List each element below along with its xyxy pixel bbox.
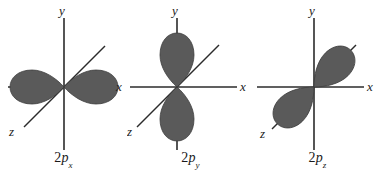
p-orbital-figure: y x z 2px y x z 2py xyxy=(0,0,381,173)
lobe-positive-x xyxy=(64,70,118,104)
lobe-negative-y xyxy=(160,87,194,141)
orbital-diagram-2py: y x z 2py xyxy=(127,0,254,173)
orbital-diagram-2px: y x z 2px xyxy=(0,0,127,173)
caption-prefix-2pz: 2 xyxy=(308,150,315,165)
axis-label-z: z xyxy=(8,124,14,139)
axis-label-x: x xyxy=(239,79,246,94)
caption-symbol-2pz: p xyxy=(316,150,323,165)
orbital-svg-2pz: y x z xyxy=(254,0,381,173)
axis-label-x: x xyxy=(366,79,373,94)
orbital-svg-2py: y x z xyxy=(127,0,254,173)
axis-label-y: y xyxy=(170,3,178,18)
orbital-caption-2px: 2px xyxy=(0,150,127,168)
caption-symbol-2py: p xyxy=(188,150,195,165)
axis-label-x: x xyxy=(115,79,122,94)
caption-subscript-2py: y xyxy=(196,160,200,170)
orbital-caption-2pz: 2pz xyxy=(254,150,381,168)
caption-subscript-2px: x xyxy=(69,160,73,170)
orbital-caption-2py: 2py xyxy=(127,150,254,168)
caption-subscript-2pz: z xyxy=(323,160,327,170)
axis-label-y: y xyxy=(57,3,65,18)
lobe-positive-y xyxy=(160,33,194,87)
axis-label-z: z xyxy=(127,124,132,139)
axis-label-y: y xyxy=(307,3,315,18)
orbital-svg-2px: y x z xyxy=(0,0,127,173)
lobe-negative-x xyxy=(10,70,64,104)
orbital-diagram-2pz: y x z 2pz xyxy=(254,0,381,173)
axis-label-z: z xyxy=(259,126,265,141)
caption-symbol-2px: p xyxy=(61,150,68,165)
